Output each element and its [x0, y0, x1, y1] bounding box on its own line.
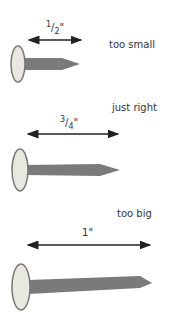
small-label: too small	[109, 39, 155, 50]
right-label: just right	[112, 102, 157, 113]
big-label: too big	[117, 208, 152, 219]
right-dimension: 3/4"	[60, 115, 78, 131]
big-nail-icon	[12, 264, 152, 310]
small-dimension: 1/2"	[46, 20, 64, 36]
right-nail-icon	[12, 149, 120, 191]
small-nail-icon	[11, 46, 80, 82]
big-dimension: 1"	[82, 227, 93, 238]
